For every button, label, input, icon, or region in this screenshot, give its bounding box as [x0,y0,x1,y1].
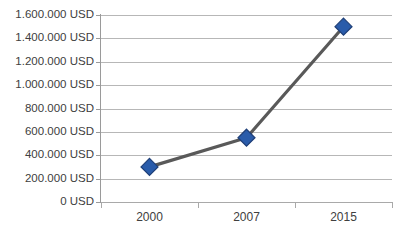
y-axis-tick [96,15,101,16]
data-point-marker [141,158,158,175]
y-axis-tick [96,132,101,133]
y-axis-tick [96,179,101,180]
series-markers [141,18,352,175]
y-axis-tick [96,38,101,39]
y-axis-tick [96,109,101,110]
line-chart: 1.600.000 USD1.400.000 USD1.200.000 USD1… [0,0,396,236]
x-axis-tick-label: 2000 [115,210,185,224]
x-axis-tick [295,202,296,208]
y-axis-tick [96,155,101,156]
y-axis-tick [96,85,101,86]
x-axis-tick [392,202,393,208]
data-series-layer [0,0,396,236]
x-axis-tick [101,202,102,208]
x-axis-tick-label: 2015 [309,210,379,224]
x-axis-tick-label: 2007 [212,210,282,224]
x-axis-tick [198,202,199,208]
y-axis-tick [96,62,101,63]
